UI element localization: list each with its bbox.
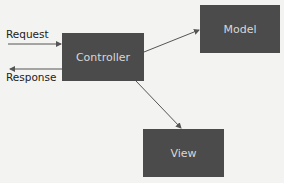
- model-label: Model: [223, 23, 256, 36]
- controller-to-model-arrow: [144, 30, 199, 52]
- controller-node: Controller: [62, 33, 144, 81]
- request-label: Request: [6, 28, 49, 40]
- view-node: View: [143, 129, 224, 177]
- model-node: Model: [200, 5, 280, 53]
- view-label: View: [170, 147, 196, 160]
- response-label: Response: [6, 71, 56, 83]
- controller-to-view-arrow: [136, 81, 181, 128]
- controller-label: Controller: [76, 51, 130, 64]
